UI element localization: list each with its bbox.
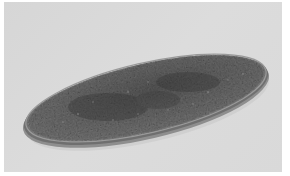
photo: Grayscale photograph of a shallow oval d… bbox=[4, 2, 282, 172]
image-frame: Grayscale photograph of a shallow oval d… bbox=[0, 0, 290, 176]
oval-dish bbox=[18, 52, 274, 152]
dish-graphic bbox=[18, 52, 274, 152]
